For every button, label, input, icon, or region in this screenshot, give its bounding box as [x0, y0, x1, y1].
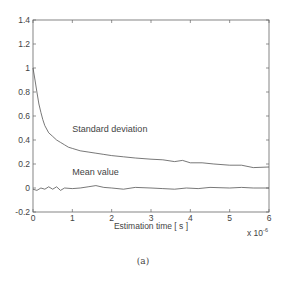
annotation-standard-deviation: Standard deviation	[72, 124, 147, 134]
y-tick-label: -0.2	[15, 207, 30, 217]
series-mean-value	[33, 186, 269, 191]
y-tick-label: 1.2	[18, 39, 30, 49]
x-tick-label: 0	[31, 213, 36, 223]
x-tick-label: 4	[188, 213, 193, 223]
line-chart: -0.200.20.40.60.811.21.40123456Estimatio…	[0, 0, 286, 250]
plot-frame	[33, 20, 269, 212]
x-tick-label: 1	[70, 213, 75, 223]
y-tick-label: 0.2	[18, 159, 30, 169]
y-tick-label: 0	[25, 183, 30, 193]
y-tick-label: 0.4	[18, 135, 30, 145]
y-tick-label: 0.6	[18, 111, 30, 121]
annotation-layer: Standard deviationMean value	[72, 124, 147, 177]
x-tick-label: 6	[267, 213, 272, 223]
y-tick-label: 1.4	[18, 15, 30, 25]
x-tick-label: 5	[227, 213, 232, 223]
y-tick-label: 0.8	[18, 87, 30, 97]
annotation-mean-value: Mean value	[72, 167, 119, 177]
series-layer	[33, 68, 269, 190]
figure-caption: (a)	[0, 256, 286, 266]
y-tick-label: 1	[25, 63, 30, 73]
x-axis-label: Estimation time [ s ]	[114, 221, 188, 231]
series-standard-deviation	[33, 68, 269, 168]
x-scale-multiplier: x 10-6	[247, 227, 268, 238]
